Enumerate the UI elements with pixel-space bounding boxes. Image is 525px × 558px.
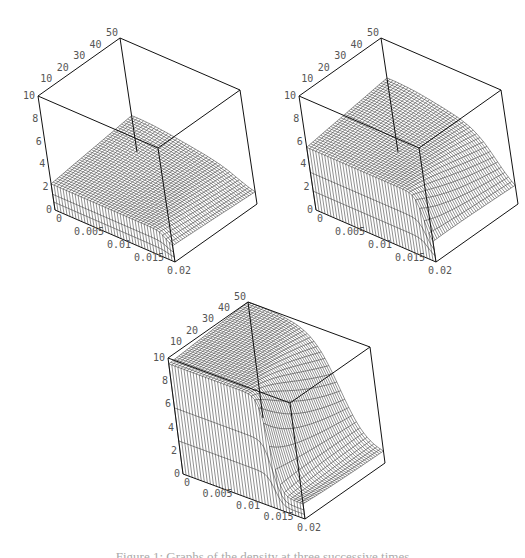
y-tick-label: 40	[218, 302, 230, 313]
x-tick-label: 0.015	[134, 252, 164, 263]
z-tick-label: 4	[168, 422, 174, 433]
y-tick-label: 10	[170, 336, 182, 347]
x-tick-label: 0.01	[368, 239, 392, 250]
z-tick-label: 10	[153, 352, 165, 363]
y-tick-label: 10	[40, 73, 52, 84]
figure-plots: 0246810102030405000.0050.010.0150.02 024…	[0, 0, 525, 558]
surface-plot-1: 0246810102030405000.0050.010.0150.02	[23, 27, 257, 276]
x-tick-label: 0.02	[428, 265, 452, 276]
z-tick-label: 10	[23, 90, 35, 101]
y-tick-label: 40	[90, 39, 102, 50]
z-tick-label: 0	[174, 468, 180, 479]
z-tick-label: 10	[284, 90, 296, 101]
x-tick-label: 0.005	[202, 488, 232, 499]
figure-caption: Figure 1: Graphs of the density at three…	[0, 547, 525, 558]
x-tick-label: 0	[317, 213, 323, 224]
x-tick-label: 0.005	[335, 226, 365, 237]
z-tick-label: 0	[46, 204, 52, 215]
x-tick-label: 0.02	[167, 265, 191, 276]
y-tick-label: 10	[301, 73, 313, 84]
surface-plot-2: 0246810102030405000.0050.010.0150.02	[284, 27, 518, 276]
z-tick-label: 2	[43, 181, 49, 192]
y-tick-label: 50	[367, 27, 379, 38]
z-tick-label: 6	[165, 398, 171, 409]
z-tick-label: 4	[300, 158, 306, 169]
y-tick-label: 50	[106, 27, 118, 38]
x-tick-label: 0.015	[263, 511, 293, 522]
z-tick-label: 0	[307, 204, 313, 215]
y-tick-label: 20	[318, 62, 330, 73]
x-tick-label: 0	[56, 213, 62, 224]
y-tick-label: 20	[186, 325, 198, 336]
x-tick-label: 0	[184, 477, 190, 488]
z-tick-label: 8	[293, 113, 299, 124]
z-tick-label: 8	[162, 375, 168, 386]
y-tick-label: 50	[234, 291, 246, 302]
z-tick-label: 4	[39, 158, 45, 169]
y-tick-label: 40	[351, 39, 363, 50]
x-tick-label: 0.01	[236, 500, 260, 511]
x-tick-label: 0.015	[395, 252, 425, 263]
z-tick-label: 8	[32, 113, 38, 124]
z-tick-label: 6	[297, 136, 303, 147]
z-tick-label: 6	[36, 136, 42, 147]
y-tick-label: 30	[73, 50, 85, 61]
y-tick-label: 20	[57, 62, 69, 73]
x-tick-label: 0.005	[74, 226, 104, 237]
surface-plot-3: 0246810102030405000.0050.010.0150.02	[153, 291, 385, 533]
y-tick-label: 30	[202, 313, 214, 324]
z-tick-label: 2	[171, 445, 177, 456]
x-tick-label: 0.02	[297, 522, 321, 533]
y-tick-label: 30	[334, 50, 346, 61]
z-tick-label: 2	[304, 181, 310, 192]
x-tick-label: 0.01	[107, 239, 131, 250]
